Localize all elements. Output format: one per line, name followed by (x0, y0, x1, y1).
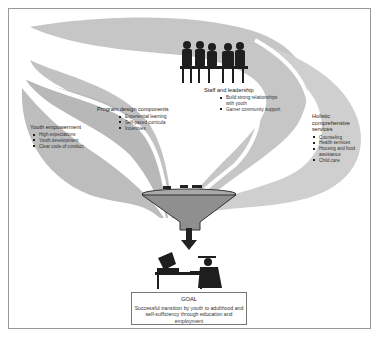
section-program-design: Program design components Experiential l… (97, 106, 169, 131)
down-arrow-icon (181, 228, 197, 250)
goal-box: GOAL Successful transition by youth to a… (131, 292, 247, 325)
graduate-at-computer-icon (155, 252, 222, 289)
list-item: Clear code of conduct (39, 144, 84, 150)
list-item: Child care (319, 158, 362, 164)
goal-title: GOAL (132, 296, 246, 304)
list-item: Incentives (125, 126, 169, 132)
section-holistic-services: Holistic comprehensive services Counseli… (312, 113, 362, 163)
list-item: Build strong relationships with youth (226, 95, 286, 106)
list-item: Garner community support (226, 107, 286, 113)
funnel-diagram-art (0, 0, 385, 339)
list-item: Housing and food assistance (319, 146, 362, 157)
section-staff-leadership: Staff and leadership Build strong relati… (198, 87, 286, 112)
goal-text: Successful transition by youth to adulth… (132, 305, 246, 325)
section-youth-empowerment: Youth empowerment High expectations Yout… (30, 124, 84, 149)
section-title: Youth empowerment (30, 124, 84, 131)
section-title: Staff and leadership (198, 87, 286, 94)
section-title: Holistic comprehensive services (312, 113, 362, 133)
section-title: Program design components (97, 106, 169, 113)
